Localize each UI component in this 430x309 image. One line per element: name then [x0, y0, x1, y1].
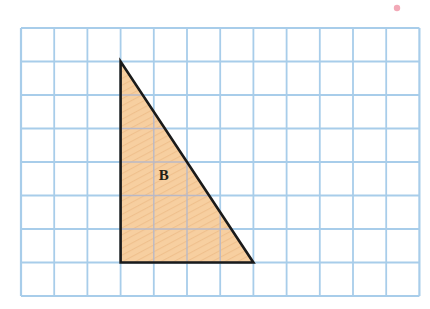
- grid-figure: B: [0, 0, 430, 309]
- red-dot-icon: [394, 5, 400, 11]
- figure-container: B: [0, 0, 430, 309]
- shape-label-b: B: [159, 167, 169, 183]
